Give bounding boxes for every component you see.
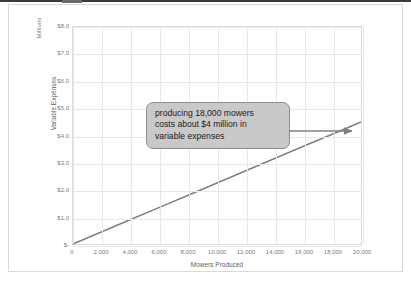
gridline-horizontal <box>73 219 361 220</box>
y-axis-tick-label: $8.0 <box>57 23 69 30</box>
gridline-horizontal <box>73 164 361 165</box>
x-axis-tick-label: 18,000 <box>324 249 342 256</box>
y-axis-tick-label: $2.0 <box>57 187 69 194</box>
gridline-horizontal <box>73 82 361 83</box>
gridline-vertical <box>363 27 364 244</box>
annotation-callout: producing 18,000 mowerscosts about $4 mi… <box>146 102 290 149</box>
gridline-horizontal <box>73 27 361 28</box>
annotation-line: costs about $4 million in <box>155 119 282 130</box>
x-axis-tick-label: 6,000 <box>151 249 166 256</box>
y-axis-tick-label: $7.0 <box>57 50 69 57</box>
y-axis-tick-label: $1.0 <box>57 214 69 221</box>
x-axis-tick-label: 8,000 <box>180 249 195 256</box>
gridline-vertical <box>102 27 103 244</box>
x-axis-tick-label: 16,000 <box>295 249 313 256</box>
gridline-horizontal <box>73 54 361 55</box>
y-axis-tick-label: $- <box>64 242 69 249</box>
x-axis-tick-label: 12,000 <box>237 249 255 256</box>
y-axis-tick-label: $4.0 <box>57 132 69 139</box>
gridline-vertical <box>131 27 132 244</box>
x-axis-tick-label: 14,000 <box>266 249 284 256</box>
annotation-arrow-icon <box>289 117 361 145</box>
y-axis-tick-label: $3.0 <box>57 159 69 166</box>
x-axis-tick-label: 4,000 <box>122 249 137 256</box>
x-axis-tick-labels: 02,0004,0006,0008,00010,00012,00014,0001… <box>72 249 362 259</box>
annotation-line: variable expenses <box>155 131 282 142</box>
gridline-horizontal <box>73 246 361 247</box>
y-axis-tick-labels: $-$1.0$2.0$3.0$4.0$5.0$6.0$7.0$8.0 <box>27 26 69 245</box>
x-axis-tick-label: 0 <box>70 249 73 256</box>
x-axis-tick-label: 20,000 <box>353 249 371 256</box>
gridline-vertical <box>73 27 74 244</box>
chart-frame: Millions Variable Expenses $-$1.0$2.0$3.… <box>8 4 403 272</box>
x-axis-tick-label: 10,000 <box>208 249 226 256</box>
x-axis-tick-label: 2,000 <box>93 249 108 256</box>
y-axis-tick-label: $5.0 <box>57 105 69 112</box>
y-axis-tick-label: $6.0 <box>57 77 69 84</box>
x-axis-title: Mowers Produced <box>72 261 362 268</box>
annotation-line: producing 18,000 mowers <box>155 108 282 119</box>
top-divider-tab <box>62 0 82 3</box>
gridline-horizontal <box>73 191 361 192</box>
